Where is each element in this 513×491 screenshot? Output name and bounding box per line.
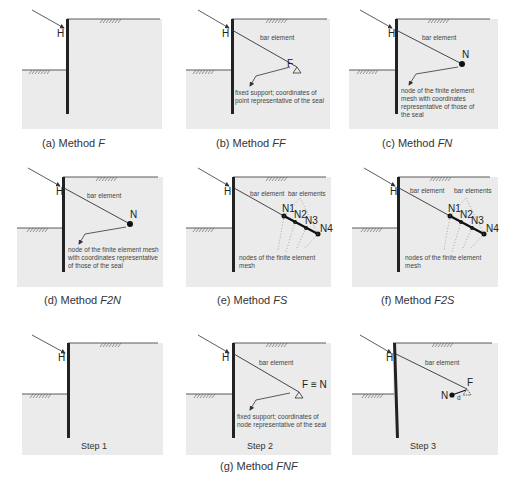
caption-a: (a) Method F	[42, 137, 106, 149]
node-label: N	[462, 49, 469, 60]
anchor-head-label: H	[56, 186, 63, 197]
note-line: with coordinates representative	[67, 254, 158, 262]
mesh-node	[127, 221, 133, 227]
note-line: mesh	[239, 262, 255, 269]
bar-element-label: bar element	[259, 359, 294, 366]
panel-g-step3: H bar element F N d Step 3	[352, 335, 498, 455]
panel-d: H bar element N node of the finite eleme…	[17, 168, 163, 306]
caption-d: (d) Method F2N	[44, 294, 121, 306]
bar-elements-label: bar elements	[454, 187, 492, 194]
bar-elements-label: bar elements	[288, 190, 326, 197]
panel-b: H bar element F fixed support; coordinat…	[186, 10, 330, 149]
panel-g-step2: H bar element F ≡ N fixed support; coord…	[186, 335, 331, 455]
caption-g: (g) Method FNF	[220, 460, 299, 472]
bar-element-label: bar element	[87, 192, 122, 199]
anchor-head-label: H	[222, 28, 229, 39]
note-line: nodes of the finite element	[405, 254, 481, 261]
panel-g-step1: H Step 1	[22, 335, 163, 455]
caption-f: (f) Method F2S	[381, 294, 455, 306]
anchor-head-label: H	[386, 352, 393, 363]
panel-e: H bar element bar elements N1 N2 N3 N4 n…	[186, 168, 333, 306]
bar-element-label: bar element	[260, 34, 295, 41]
panel-c: H bar element N node of the finite eleme…	[349, 10, 498, 149]
note-line: of those of the seal	[68, 262, 123, 269]
anchor-force-arrow	[32, 10, 64, 28]
node-label: N	[441, 390, 448, 401]
node-label: N4	[486, 223, 499, 234]
note-line: nodes of the finite element	[239, 254, 315, 261]
retaining-wall	[66, 19, 69, 114]
step-label: Step 3	[410, 441, 436, 451]
fixed-point-label: F	[467, 377, 473, 388]
panel-a: H (a) Method F	[22, 10, 162, 149]
anchor-head-label: H	[224, 186, 231, 197]
anchor-head-label: H	[58, 352, 65, 363]
node-label: N3	[471, 215, 484, 226]
panel-f: H bar element bar elements N1 N2 N3 N4 n…	[352, 168, 499, 306]
bar-element-label: bar element	[425, 359, 460, 366]
note-line: fixed support; coordinates of	[235, 89, 317, 97]
anchor-head-label: H	[388, 28, 395, 39]
anchor-head-label: H	[222, 352, 229, 363]
note-line: mesh with coordinates	[401, 95, 466, 102]
step-label: Step 1	[81, 441, 107, 451]
fixed-node-label: F ≡ N	[302, 379, 327, 390]
bar-element-label: bar element	[422, 34, 457, 41]
caption-e: (e) Method FS	[217, 294, 288, 306]
note-line: fixed support; coordinates of	[237, 413, 319, 421]
node-label: N4	[320, 223, 333, 234]
bar-element-label: bar element	[250, 190, 285, 197]
node-label: N	[130, 209, 137, 220]
note-line: node of the finite element mesh	[68, 246, 159, 253]
note-line: representative of those of	[401, 103, 475, 111]
caption-b: (b) Method FF	[216, 137, 287, 149]
note-line: the seal	[401, 111, 424, 118]
note-line: mesh	[405, 262, 421, 269]
node-label: N3	[305, 215, 318, 226]
note-line: node of the finite element	[401, 87, 474, 94]
offset-label: d	[457, 394, 461, 401]
anchor-head-label: H	[57, 28, 64, 39]
note-line: node representative of the seal	[237, 421, 327, 429]
step-label: Step 2	[247, 441, 273, 451]
anchor-head-label: H	[390, 186, 397, 197]
mesh-node	[459, 61, 465, 67]
note-line: point representative of the seal	[235, 97, 324, 105]
bar-element-label: bar element	[410, 187, 445, 194]
caption-c: (c) Method FN	[382, 137, 452, 149]
anchoring-methods-diagram: H (a) Method F H bar element F fixed sup…	[0, 0, 513, 491]
